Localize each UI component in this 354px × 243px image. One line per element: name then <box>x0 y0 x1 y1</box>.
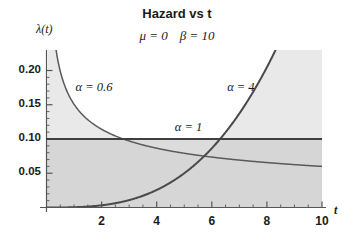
y-tick-label: 0.10 <box>1 131 41 143</box>
annotation-alpha-1: α = 1 <box>175 120 203 135</box>
chart-figure: Hazard vs t μ = 0β = 10 λ(t) t <box>0 0 354 243</box>
x-tick-label: 2 <box>89 214 115 228</box>
x-tick-label: 8 <box>254 214 280 228</box>
y-tick-label: 0.05 <box>1 165 41 177</box>
x-tick-label: 4 <box>144 214 170 228</box>
shaded-regions <box>46 0 322 208</box>
x-tick-label: 10 <box>309 214 335 228</box>
x-tick-label: 6 <box>199 214 225 228</box>
annotation-alpha-0-6: α = 0.6 <box>76 80 113 95</box>
y-tick-label: 0.20 <box>1 63 41 75</box>
y-tick-label: 0.15 <box>1 97 41 109</box>
annotation-alpha-4: α = 4 <box>227 80 255 95</box>
